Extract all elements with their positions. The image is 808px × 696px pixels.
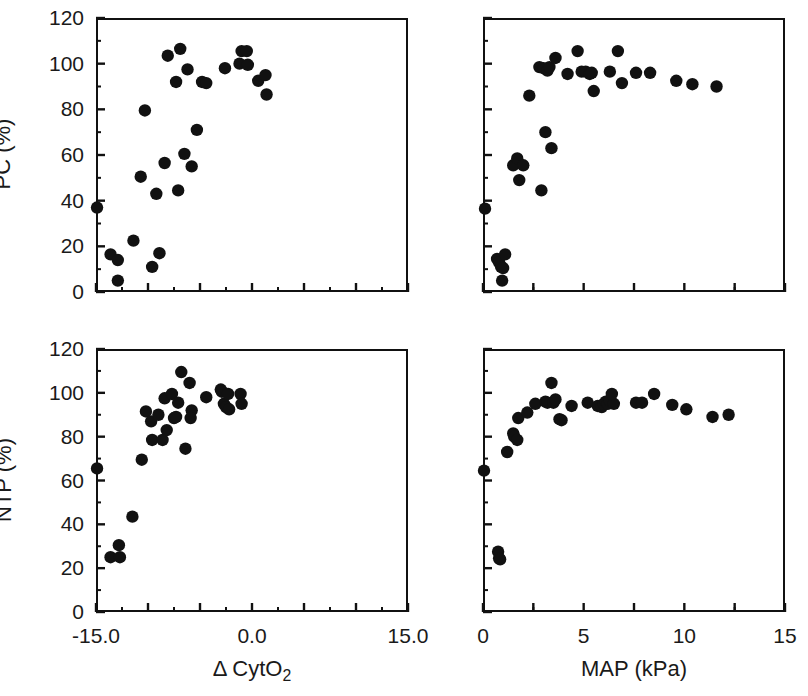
data-point (549, 393, 561, 405)
y-tick-label: 100 (18, 52, 84, 76)
data-point (174, 43, 186, 55)
data-point (259, 69, 271, 81)
data-point (161, 424, 173, 436)
data-point (175, 366, 187, 378)
y-tick-label: 20 (18, 234, 84, 258)
y-axis-title: NTP (%) (0, 348, 16, 611)
data-point (153, 247, 165, 259)
data-point (497, 262, 509, 274)
data-point (722, 409, 734, 421)
data-point (565, 400, 577, 412)
data-point (162, 49, 174, 61)
data-point (494, 553, 506, 565)
data-point (135, 170, 147, 182)
data-point (586, 67, 598, 79)
data-point (535, 184, 547, 196)
data-point (219, 62, 231, 74)
data-point (588, 85, 600, 97)
data-point (555, 414, 567, 426)
data-point (152, 409, 164, 421)
x-axis-title: Δ CytO2 (96, 656, 408, 685)
data-point (150, 188, 162, 200)
data-point (181, 63, 193, 75)
data-point (612, 45, 624, 57)
data-point (666, 399, 678, 411)
y-tick-label: 80 (18, 425, 84, 449)
x-axis-title: MAP (kPa) (483, 656, 785, 682)
data-point (223, 403, 235, 415)
data-point (499, 248, 511, 260)
data-point (112, 274, 124, 286)
plot-canvas (96, 18, 408, 292)
data-point (126, 510, 138, 522)
x-tick-label: -15.0 (72, 624, 120, 648)
panel-ntp-vs-dcyto2 (96, 349, 408, 612)
data-point (680, 403, 692, 415)
data-point (710, 80, 722, 92)
data-point (112, 254, 124, 266)
data-point (511, 434, 523, 446)
data-point (185, 160, 197, 172)
data-point (241, 45, 253, 57)
data-point (478, 464, 490, 476)
data-point (501, 446, 513, 458)
data-point (139, 104, 151, 116)
data-point (479, 202, 491, 214)
data-point (604, 65, 616, 77)
data-point (158, 157, 170, 169)
y-tick-label: 60 (18, 469, 84, 493)
plot-canvas (96, 349, 408, 612)
x-tick-label: 5 (578, 624, 590, 648)
x-tick-label: 15 (773, 624, 796, 648)
data-point (513, 174, 525, 186)
data-point (170, 411, 182, 423)
x-tick-label: 15.0 (388, 624, 429, 648)
plot-canvas (483, 18, 785, 292)
data-point (644, 67, 656, 79)
data-point (561, 68, 573, 80)
data-point (183, 377, 195, 389)
data-point (114, 551, 126, 563)
data-point (172, 184, 184, 196)
data-point (545, 377, 557, 389)
data-point (606, 388, 618, 400)
data-point (146, 261, 158, 273)
y-tick-label: 120 (18, 6, 84, 30)
x-tick-label: 0 (477, 624, 489, 648)
data-point (630, 67, 642, 79)
data-point (191, 124, 203, 136)
data-point (222, 388, 234, 400)
data-point (517, 159, 529, 171)
data-point (686, 78, 698, 90)
scatter-figure: 020406080100120PC (%)020406080100120-15.… (0, 0, 808, 696)
data-point (200, 391, 212, 403)
data-point (571, 45, 583, 57)
y-tick-label: 60 (18, 143, 84, 167)
data-point (136, 453, 148, 465)
y-tick-label: 0 (18, 600, 84, 624)
data-point (127, 234, 139, 246)
data-point (545, 142, 557, 154)
data-point (549, 52, 561, 64)
plot-canvas (483, 349, 785, 612)
x-tick-label: 10 (673, 624, 696, 648)
data-point (179, 443, 191, 455)
y-axis-title: PC (%) (0, 17, 16, 291)
data-point (178, 148, 190, 160)
y-tick-label: 40 (18, 512, 84, 536)
y-tick-label: 40 (18, 189, 84, 213)
data-point (523, 89, 535, 101)
data-point (91, 462, 103, 474)
y-tick-label: 80 (18, 97, 84, 121)
data-point (242, 59, 254, 71)
y-tick-label: 120 (18, 337, 84, 361)
x-tick-label: 0.0 (237, 624, 266, 648)
panel-pc-vs-dcyto2 (96, 18, 408, 292)
data-point (706, 411, 718, 423)
y-tick-label: 0 (18, 280, 84, 304)
data-point (496, 274, 508, 286)
data-point (670, 75, 682, 87)
data-point (172, 396, 184, 408)
data-point (616, 77, 628, 89)
data-point (91, 201, 103, 213)
